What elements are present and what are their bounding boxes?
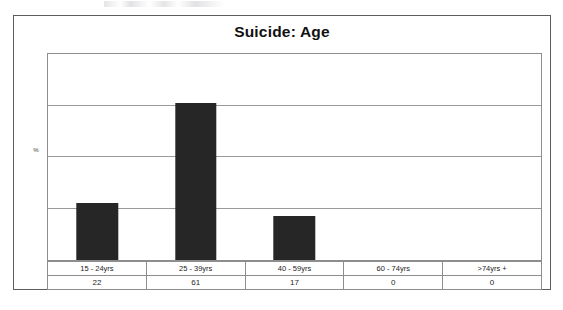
bar-40-59yrs[interactable] [274, 216, 315, 260]
category-label-cell: 15 - 24yrs [48, 262, 147, 276]
value-cell: 22 [48, 276, 147, 290]
scan-artifact [104, 1, 224, 7]
bar-slot [245, 54, 344, 260]
category-label-cell: 25 - 39yrs [146, 262, 245, 276]
y-axis-label: % [23, 147, 49, 153]
bar-slot [442, 54, 541, 260]
chart-title: Suicide: Age [14, 23, 550, 41]
data-table: 15 - 24yrs25 - 39yrs40 - 59yrs60 - 74yrs… [47, 261, 542, 290]
value-cell: 17 [245, 276, 344, 290]
bar-slot [344, 54, 443, 260]
category-label-cell: >74yrs + [443, 262, 542, 276]
plot-area [47, 53, 542, 261]
bar-25-39yrs[interactable] [175, 103, 216, 260]
value-cell: 0 [443, 276, 542, 290]
bar-slot [48, 54, 147, 260]
table-row-values: 22611700 [48, 276, 542, 290]
bar-15-24yrs[interactable] [77, 203, 118, 260]
value-cell: 61 [146, 276, 245, 290]
table-row-categories: 15 - 24yrs25 - 39yrs40 - 59yrs60 - 74yrs… [48, 262, 542, 276]
value-cell: 0 [344, 276, 443, 290]
chart-frame: Suicide: Age % 15 - 24yrs25 - 39yrs40 - … [13, 15, 551, 290]
category-label-cell: 60 - 74yrs [344, 262, 443, 276]
bar-series [48, 54, 541, 260]
category-label-cell: 40 - 59yrs [245, 262, 344, 276]
bar-slot [147, 54, 246, 260]
